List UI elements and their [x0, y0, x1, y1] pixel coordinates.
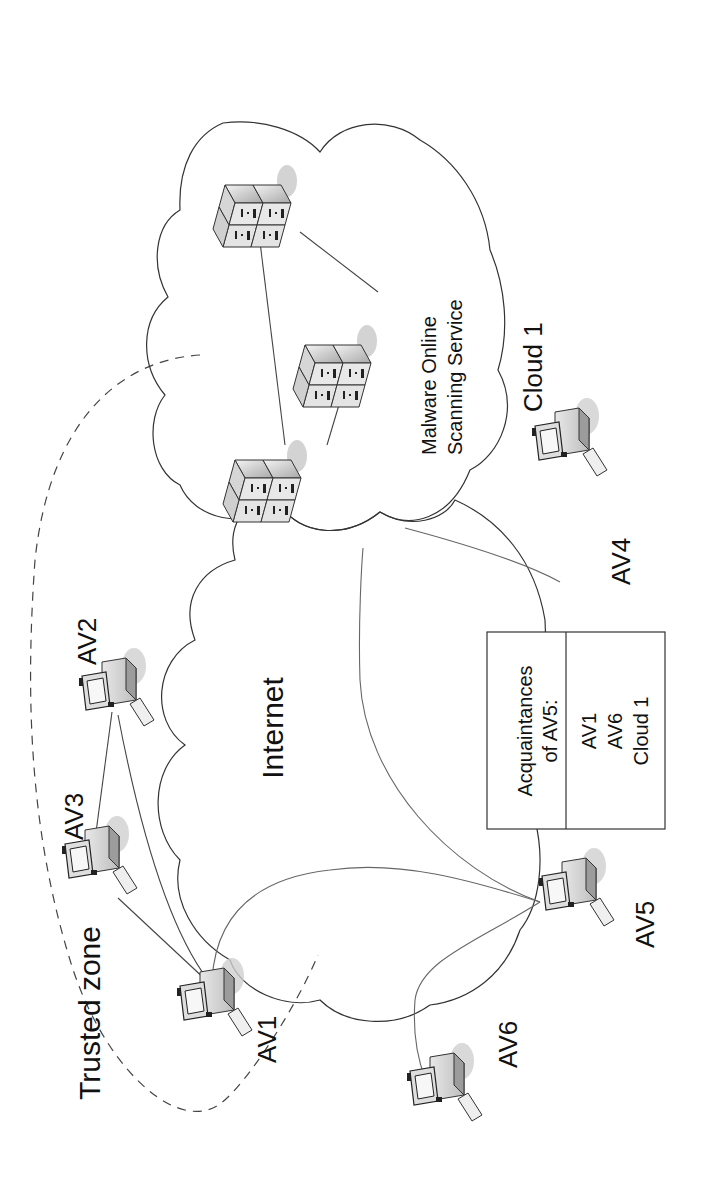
acquaintance-item-cloud1: Cloud 1 [630, 697, 652, 766]
acquaintance-item-av6: AV6 [604, 713, 626, 749]
link-server1-server3 [260, 242, 285, 445]
acquaintances-box: Acquaintances of AV5: AV1 AV6 Cloud 1 [487, 632, 665, 829]
link-av4-cloud1 [405, 528, 560, 582]
cloud1-service-line1: Malware Online [418, 316, 440, 455]
av1-computer-icon[interactable] [177, 958, 252, 1036]
av1-label: AV1 [252, 1016, 282, 1063]
server-icon-2[interactable] [293, 325, 377, 407]
av5-label: AV5 [630, 901, 660, 948]
internet-label: Internet [256, 676, 289, 778]
acquaintances-header-line2: of AV5: [539, 699, 561, 762]
av3-label: AV3 [59, 793, 89, 840]
av5-computer-icon[interactable] [539, 848, 614, 926]
acquaintance-item-av1: AV1 [578, 713, 600, 749]
acquaintances-header-line1: Acquaintances [514, 665, 536, 796]
cloud1-label: Cloud 1 [518, 322, 548, 412]
link-av3-av1 [118, 898, 208, 982]
av6-label: AV6 [493, 1021, 523, 1068]
server-icon-3[interactable] [223, 440, 307, 522]
av2-label: AV2 [72, 618, 102, 665]
link-server1-server2 [300, 232, 378, 292]
trusted-zone-label: Trusted zone [73, 926, 106, 1100]
link-av5-av1 [212, 867, 540, 980]
server-icon-1[interactable] [213, 165, 297, 247]
cloud1-service-line2: Scanning Service [444, 299, 466, 455]
av4-label: AV4 [606, 538, 636, 585]
network-diagram: Acquaintances of AV5: AV1 AV6 Cloud 1 In… [0, 0, 712, 1190]
